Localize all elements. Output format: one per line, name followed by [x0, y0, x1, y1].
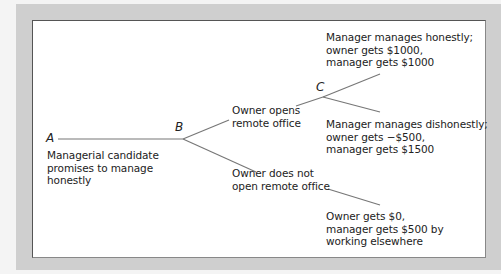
node-c-label: C — [316, 80, 324, 94]
node-b-label: B — [175, 120, 183, 134]
node-a-label: A — [46, 131, 54, 145]
edge-b-open — [183, 120, 229, 139]
edge-not-open-payoff — [328, 189, 380, 205]
label-owner-opens: Owner opens remote office — [232, 104, 301, 129]
edge-c-honest — [323, 74, 380, 97]
edge-c-dishonest — [323, 97, 380, 112]
label-owner-not-open: Owner does not open remote office — [232, 167, 330, 192]
label-candidate-promise: Managerial candidate promises to manage … — [47, 149, 159, 187]
label-not-open-payoff: Owner gets $0, manager gets $500 by work… — [326, 210, 444, 248]
label-manages-honestly: Manager manages honestly; owner gets $10… — [326, 31, 473, 69]
label-manages-dishonestly: Manager manages dishonestly; owner gets … — [326, 118, 488, 156]
